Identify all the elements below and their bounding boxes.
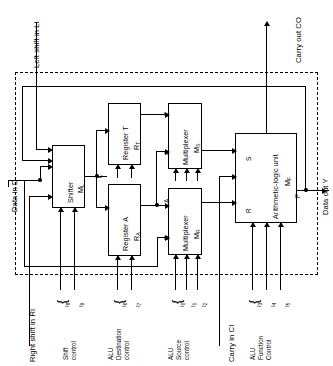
brace-alu-destination: { xyxy=(112,300,125,304)
wire-data-d-up xyxy=(157,237,158,267)
bit-label-i5: I5 xyxy=(283,303,292,307)
arrow-alu-src-i0-mux-r xyxy=(173,254,179,259)
arrow-data-out xyxy=(322,188,327,194)
block-alu-symbol: MF xyxy=(284,177,293,186)
arrow-feedback-shifter xyxy=(48,158,53,164)
signal-label-alu-in-r: R xyxy=(245,208,253,213)
arrow-reg-a-to-mux-s xyxy=(165,149,170,155)
wire-carry-in xyxy=(219,176,220,346)
wire-data-d-across xyxy=(24,266,158,267)
wire-alu-src-i2 xyxy=(197,255,198,290)
block-multiplexer-s-label: Multiplexer xyxy=(182,129,190,165)
signal-label-alu-in-s: S xyxy=(245,157,253,161)
arrow-alu-fn-i4 xyxy=(264,222,270,227)
wire-shift-ctrl-i8 xyxy=(60,208,61,290)
arrow-carry-out xyxy=(264,21,270,26)
bit-label-i4: I4 xyxy=(269,303,278,307)
wire-alu-fn-i3 xyxy=(252,223,253,290)
arrow-alu-src-i1-mux-s xyxy=(184,168,190,173)
arrow-carry-in-alu xyxy=(232,174,237,180)
arrow-alu-dest-i7-reg-t xyxy=(129,164,135,169)
wire-feedback-up xyxy=(305,86,306,191)
wire-feedback-across xyxy=(22,86,306,87)
wire-feedback-down xyxy=(22,86,23,161)
block-register-a-label: Register A xyxy=(122,217,130,251)
bit-label-i7: I7 xyxy=(134,303,143,307)
wire-alu-fn-i5 xyxy=(280,223,281,290)
arrow-left-shift-into-shifter xyxy=(48,147,53,153)
arrow-data-d-mux-r xyxy=(165,235,170,241)
arrow-alu-dest-i6-reg-a xyxy=(115,255,121,260)
bit-label-i9: I9 xyxy=(77,303,86,307)
wire-mux-r-out xyxy=(202,202,234,203)
port-label-left-shift-in: Left shift in LI xyxy=(33,21,42,68)
bit-label-i2: I2 xyxy=(200,303,209,307)
block-multiplexer-r-label: Multiplexer xyxy=(182,215,190,251)
wire-alu-dest-i7 xyxy=(131,256,132,290)
control-group-alu-destination: ALUDestinationcontrol xyxy=(107,328,131,360)
bit-label-i1: I1 xyxy=(189,303,198,307)
arrow-reg-t-to-mux-s xyxy=(165,112,170,118)
port-label-right-shift-in: Right shift in RI xyxy=(29,309,38,362)
junction-data-in xyxy=(38,178,41,181)
wire-right-shift-in-h xyxy=(29,196,49,197)
wire-reg-t-out xyxy=(141,114,167,115)
wire-shift-ctrl-i9 xyxy=(74,208,75,290)
block-alu-label-line1: Arithmetic-logic unit xyxy=(272,154,280,219)
block-register-t-symbol: RT xyxy=(133,141,142,150)
block-register-a-symbol: RA xyxy=(133,232,142,241)
arrow-data-in-shifter xyxy=(48,164,53,170)
wire-alu-dest-i6 xyxy=(117,256,118,290)
arrow-shifter-to-reg-t xyxy=(105,128,110,134)
figure-canvas: Left shift in LI Carry out CO Data in D … xyxy=(0,0,333,366)
arrow-alu-src-i2-mux-s xyxy=(195,168,201,173)
signal-label-alu-out: F xyxy=(294,194,302,198)
control-group-alu-source: ALUSourcecontrol xyxy=(167,340,191,360)
port-label-data-out: Data out Y xyxy=(322,178,331,215)
arrow-alu-src-i0-mux-s xyxy=(173,168,179,173)
block-shifter-label: Shifter xyxy=(67,182,75,203)
arrow-shift-ctrl-i8 xyxy=(58,207,64,212)
arrow-mux-r-to-alu xyxy=(232,200,237,206)
control-group-shift-control: Shiftcontrol xyxy=(62,341,78,360)
arrow-mux-s-to-alu xyxy=(232,148,237,154)
arrow-alu-src-i1-mux-r xyxy=(184,254,190,259)
arrow-alu-src-i2-mux-r xyxy=(195,254,201,259)
block-multiplexer-r-symbol: MR xyxy=(193,229,202,239)
arrow-shifter-to-reg-a xyxy=(105,205,110,211)
brace-alu-source: { xyxy=(170,300,183,304)
brace-shift-control: { xyxy=(55,300,68,304)
wire-right-shift-in xyxy=(29,196,30,346)
port-label-carry-out: Carry out CO xyxy=(295,17,304,63)
wire-shifter-out-up xyxy=(96,130,97,177)
port-label-carry-in: Carry in CI xyxy=(228,325,237,362)
wire-shifter-out-down xyxy=(96,176,97,208)
arrow-alu-fn-i3 xyxy=(250,222,256,227)
arrow-reg-a-to-mux-r xyxy=(165,203,170,209)
wire-reg-a-out-up xyxy=(156,151,157,206)
control-group-alu-function: ALUFunctionControl xyxy=(249,336,273,360)
arrow-right-shift-into-shifter xyxy=(48,194,53,200)
wire-alu-fn-i4 xyxy=(266,223,267,290)
wire-data-d-down xyxy=(24,180,25,267)
arrow-alu-dest-i6-reg-t xyxy=(115,164,121,169)
wire-alu-src-i0 xyxy=(175,255,176,290)
wire-reg-a-out xyxy=(141,205,167,206)
arrow-shift-ctrl-i9 xyxy=(72,207,78,212)
brace-alu-function: { xyxy=(247,300,260,304)
arrow-alu-fn-i5 xyxy=(278,222,284,227)
block-multiplexer-s-symbol: MS xyxy=(193,143,202,153)
wire-feedback-into-shifter xyxy=(22,160,49,161)
block-shifter-symbol: ML xyxy=(77,184,86,193)
wire-carry-out xyxy=(266,24,267,134)
wire-mux-s-out xyxy=(202,150,234,151)
wire-alu-src-i1 xyxy=(186,255,187,290)
block-register-t-label: Register T xyxy=(122,126,130,160)
arrow-alu-dest-i7-reg-a xyxy=(129,255,135,260)
